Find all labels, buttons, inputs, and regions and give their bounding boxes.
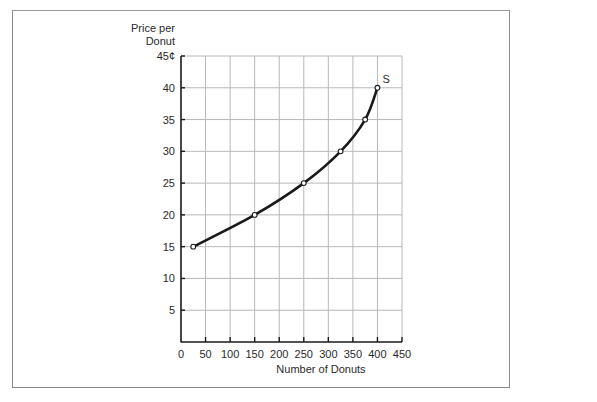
data-points	[191, 85, 380, 249]
y-tick-label: 35	[163, 114, 175, 126]
x-tick-label: 300	[319, 348, 337, 360]
x-tick-label: 0	[178, 348, 184, 360]
x-tick-label: 250	[295, 348, 313, 360]
y-tick-label: 45¢	[157, 50, 175, 62]
y-tick-label: 15	[163, 241, 175, 253]
data-point-marker	[191, 244, 196, 249]
x-tick-label: 200	[270, 348, 288, 360]
y-axis-title-line1: Price per	[131, 22, 175, 34]
y-tick-label: 25	[163, 177, 175, 189]
axes	[181, 56, 402, 343]
y-tick-label: 20	[163, 209, 175, 221]
supply-curve	[193, 88, 377, 247]
data-point-marker	[301, 181, 306, 186]
y-tick-label: 40	[163, 82, 175, 94]
y-tick-label: 30	[163, 145, 175, 157]
tick-labels: 0501001502002503003504004505101520253035…	[157, 50, 412, 360]
x-tick-label: 100	[221, 348, 239, 360]
data-point-marker	[338, 149, 343, 154]
data-point-marker	[375, 85, 380, 90]
y-tick-label: 5	[169, 304, 175, 316]
y-axis-title-line2: Donut	[146, 35, 175, 47]
x-tick-label: 50	[199, 348, 211, 360]
x-axis-title: Number of Donuts	[276, 363, 366, 375]
data-point-marker	[363, 117, 368, 122]
x-tick-label: 150	[245, 348, 263, 360]
x-tick-label: 450	[393, 348, 411, 360]
x-tick-label: 350	[344, 348, 362, 360]
grid-lines	[181, 56, 402, 342]
series-label-s: S	[382, 73, 389, 85]
data-point-marker	[252, 212, 257, 217]
x-tick-label: 400	[368, 348, 386, 360]
supply-chart: 0501001502002503003504004505101520253035…	[0, 0, 597, 402]
y-tick-label: 10	[163, 272, 175, 284]
